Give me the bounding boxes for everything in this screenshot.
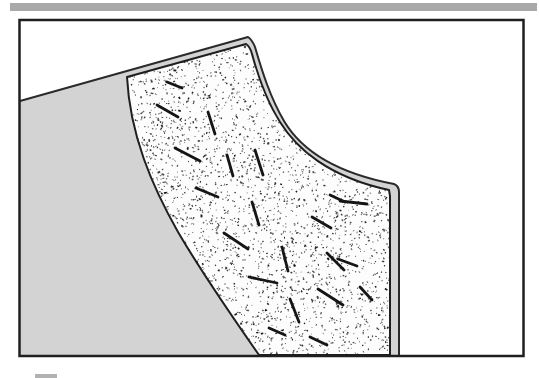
- diagram-svg: [0, 0, 539, 378]
- scanned-page: [0, 0, 539, 378]
- geology-diagram: [0, 0, 539, 378]
- top-rule: [10, 3, 537, 11]
- legend-key-stub: [35, 374, 57, 378]
